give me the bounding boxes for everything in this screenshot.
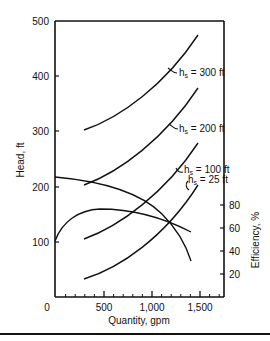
y2-tick-label: 40 xyxy=(229,246,241,257)
y-axis-tick-labels: 500 400 300 200 100 xyxy=(32,16,49,248)
y-axis-title: Head, ft xyxy=(15,142,26,177)
label-hs-300: hs = 300 ft xyxy=(179,67,225,79)
system-curve-hs-100 xyxy=(84,143,198,239)
x-tick-label: 0 xyxy=(44,302,50,313)
y2-axis-title: Efficiency, % xyxy=(250,212,261,268)
plot-frame xyxy=(55,21,224,297)
y-tick-label: 400 xyxy=(32,71,49,82)
label-hs-200: hs = 200 ft xyxy=(179,123,225,135)
y-tick-label: 500 xyxy=(32,16,49,27)
system-curve-hs-300 xyxy=(84,35,198,130)
x-axis-title: Quantity, gpm xyxy=(108,315,170,326)
y-tick-label: 100 xyxy=(32,237,49,248)
x-tick-label: 1,000 xyxy=(139,302,164,313)
y2-tick-label: 80 xyxy=(229,200,241,211)
label-hs-25: hs = 25 ft xyxy=(188,174,228,186)
pump-efficiency-curve xyxy=(55,209,191,241)
y2-tick-label: 60 xyxy=(229,223,241,234)
x-tick-label: 500 xyxy=(96,302,113,313)
y2-axis-tick-labels: 80 60 40 20 xyxy=(229,200,241,280)
x-axis-tick-labels: 0 500 1,000 1,500 xyxy=(44,302,213,313)
pump-system-chart: 500 400 300 200 100 80 60 40 20 0 500 1,… xyxy=(0,0,270,341)
y2-tick-label: 20 xyxy=(229,269,241,280)
x-tick-label: 1,500 xyxy=(187,302,212,313)
x-axis-ticks xyxy=(66,291,220,297)
y-tick-label: 200 xyxy=(32,182,49,193)
y-tick-label: 300 xyxy=(32,126,49,137)
system-curve-hs-200 xyxy=(84,88,198,185)
